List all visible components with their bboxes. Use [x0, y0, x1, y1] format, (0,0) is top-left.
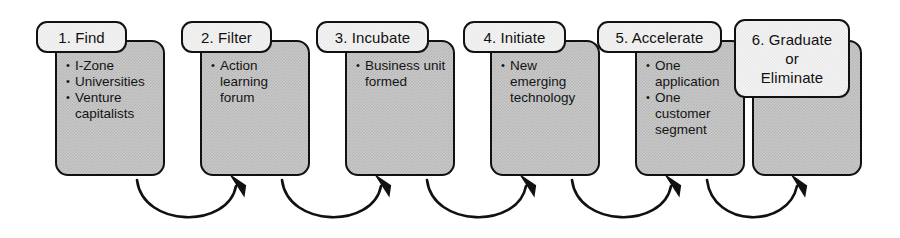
- stage-label-text: 1. Find: [58, 29, 105, 46]
- stage-label-line: 2. Filter: [201, 29, 252, 46]
- stage-bullet-list-initiate: New emerging technology: [501, 58, 593, 106]
- stage-label-filter[interactable]: 2. Filter: [181, 21, 272, 53]
- stage-bullet-item: Venture capitalists: [66, 90, 158, 122]
- arrow-accelerate-to-graduate: [707, 180, 797, 217]
- stage-label-line: 5. Accelerate: [615, 29, 703, 46]
- stage-label-line: 1. Find: [58, 29, 105, 46]
- stage-label-line: 3. Incubate: [335, 29, 410, 46]
- arrow-incubate-to-initiate: [427, 180, 526, 217]
- stage-bullet-list-filter: Action learning forum: [211, 58, 303, 106]
- stage-label-initiate[interactable]: 4. Initiate: [463, 21, 566, 53]
- arrow-initiate-to-accelerate: [572, 180, 671, 217]
- stage-label-text: 4. Initiate: [484, 29, 546, 46]
- process-flow-diagram: I-ZoneUniversitiesVenture capitalists1. …: [0, 0, 900, 238]
- stage-label-graduate-or-eliminate[interactable]: 6. GraduateorEliminate: [734, 19, 850, 98]
- stage-bullet-item: Action learning forum: [211, 58, 303, 106]
- stage-label-text: 6. GraduateorEliminate: [752, 30, 832, 87]
- stage-label-line: 4. Initiate: [484, 29, 546, 46]
- stage-bullet-item: Universities: [66, 74, 158, 90]
- stage-bullet-list-find: I-ZoneUniversitiesVenture capitalists: [66, 58, 158, 122]
- stage-bullet-item: One application: [646, 58, 738, 90]
- stage-bullet-list-incubate: Business unit formed: [356, 58, 448, 90]
- stage-label-text: 3. Incubate: [335, 29, 410, 46]
- stage-label-line: 6. Graduate: [752, 30, 832, 49]
- stage-label-line: or: [752, 49, 832, 68]
- stage-bullet-item: Business unit formed: [356, 58, 448, 90]
- stage-bullet-list-accelerate: One applicationOne customer segment: [646, 58, 738, 138]
- stage-label-text: 2. Filter: [201, 29, 252, 46]
- stage-label-incubate[interactable]: 3. Incubate: [316, 21, 429, 53]
- stage-label-accelerate[interactable]: 5. Accelerate: [597, 21, 722, 53]
- arrow-filter-to-incubate: [282, 180, 381, 217]
- stage-label-find[interactable]: 1. Find: [36, 21, 127, 53]
- stage-bullet-item: One customer segment: [646, 90, 738, 138]
- stage-label-line: Eliminate: [752, 68, 832, 87]
- stage-bullet-item: I-Zone: [66, 58, 158, 74]
- stage-bullet-item: New emerging technology: [501, 58, 593, 106]
- stage-label-text: 5. Accelerate: [615, 29, 703, 46]
- arrow-find-to-filter: [137, 180, 236, 217]
